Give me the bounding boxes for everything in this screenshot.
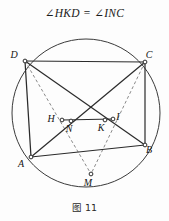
- point-h: [60, 118, 64, 122]
- point-label-a: A: [17, 158, 25, 169]
- point-d: [23, 59, 27, 63]
- segment-ab: [31, 145, 145, 157]
- point-i: [111, 117, 115, 121]
- point-label-d: D: [9, 49, 18, 60]
- segment-dc: [25, 61, 145, 62]
- geometry-figure: DCABMHNKI: [0, 26, 169, 198]
- point-c: [143, 60, 147, 64]
- point-label-i: I: [115, 111, 120, 122]
- point-label-m: M: [83, 177, 93, 188]
- figure-caption: 图 11: [0, 200, 169, 214]
- figure-page: ∠HKD = ∠INC DCABMHNKI 图 11: [0, 0, 169, 221]
- point-a: [29, 155, 33, 159]
- segment-da: [25, 61, 31, 157]
- segment-ac: [31, 62, 145, 157]
- point-m: [89, 172, 93, 176]
- point-label-k: K: [97, 122, 106, 133]
- point-label-c: C: [146, 49, 153, 60]
- segment-db: [25, 61, 145, 145]
- point-label-h: H: [46, 113, 55, 124]
- figure-title: ∠HKD = ∠INC: [0, 6, 169, 20]
- point-label-b: B: [146, 144, 152, 155]
- point-label-n: N: [65, 123, 74, 134]
